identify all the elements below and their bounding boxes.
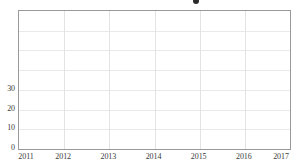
gridline-vertical [109, 11, 110, 149]
x-axis-tick-label: 2016 [224, 152, 264, 161]
x-axis-tick-label: 2011 [6, 152, 46, 161]
x-axis-tick-label: 2014 [134, 152, 174, 161]
gridlines [19, 11, 290, 149]
y-axis-tick-label: 0 [0, 144, 15, 152]
chart-title [0, 0, 306, 3]
y-axis-tick-label: 10 [0, 124, 15, 132]
x-axis-tick-label: 2012 [43, 152, 83, 161]
gridline-vertical [155, 11, 156, 149]
plot-area [18, 10, 291, 150]
gridline-vertical [200, 11, 201, 149]
gridline-vertical [64, 11, 65, 149]
x-axis-tick-label: 2017 [261, 152, 301, 161]
chart-container: 0102030 2011201220132014201520162017 [0, 0, 306, 163]
x-axis-tick-label: 2013 [88, 152, 128, 161]
y-axis-tick-label: 20 [0, 105, 15, 113]
title-circle-marker-icon [193, 0, 199, 4]
x-axis-tick-label: 2015 [179, 152, 219, 161]
gridline-vertical [245, 11, 246, 149]
y-axis-tick-label: 30 [0, 85, 15, 93]
